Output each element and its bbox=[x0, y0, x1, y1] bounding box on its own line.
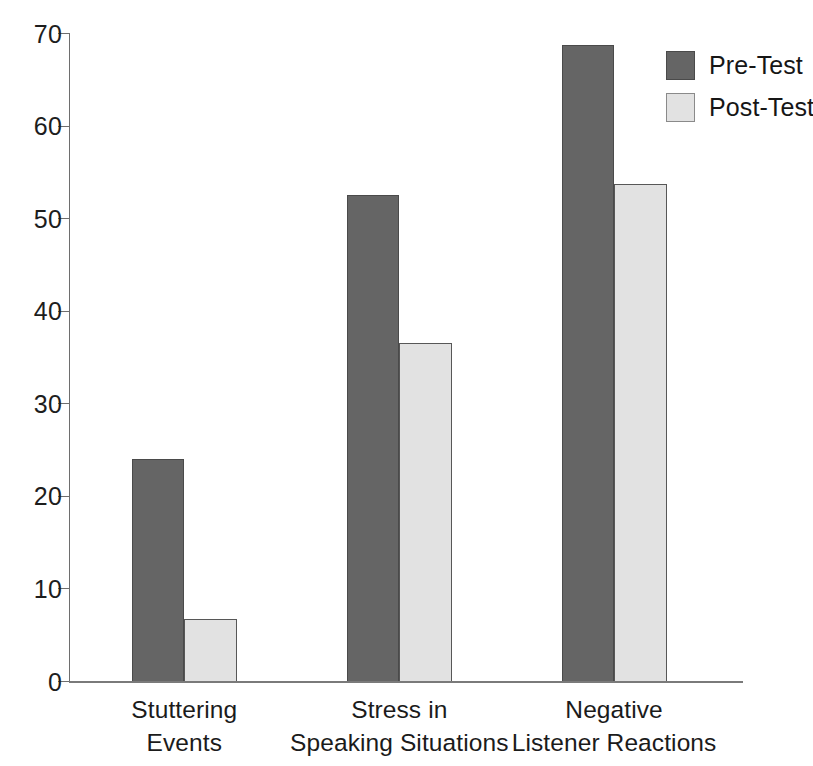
y-tick-20: 20 bbox=[69, 496, 70, 497]
legend: Pre-Test Post-Test bbox=[666, 44, 813, 128]
bar-pre-test-group-3 bbox=[562, 45, 615, 681]
bar-pre-test-group-2 bbox=[347, 195, 400, 681]
bar-post-test-group-1 bbox=[184, 619, 237, 681]
x-axis-line bbox=[69, 681, 743, 683]
legend-item-pre-test: Pre-Test bbox=[666, 44, 813, 86]
y-tick-0: 0 bbox=[69, 681, 70, 682]
y-tick-label: 30 bbox=[34, 389, 62, 418]
y-tick-30: 30 bbox=[69, 403, 70, 404]
y-tick-70: 70 bbox=[69, 33, 70, 34]
legend-label-post-test: Post-Test bbox=[709, 93, 813, 122]
y-tick-10: 10 bbox=[69, 588, 70, 589]
bar-post-test-group-3 bbox=[614, 184, 667, 681]
y-tick-50: 50 bbox=[69, 218, 70, 219]
bar-pre-test-group-1 bbox=[132, 459, 185, 681]
y-tick-label: 10 bbox=[34, 574, 62, 603]
legend-item-post-test: Post-Test bbox=[666, 86, 813, 128]
y-tick-label: 20 bbox=[34, 482, 62, 511]
y-tick-label: 50 bbox=[34, 204, 62, 233]
plot-area: 010203040506070 bbox=[69, 33, 744, 681]
y-tick-label: 70 bbox=[34, 19, 62, 48]
legend-swatch-pre-test-icon bbox=[666, 51, 695, 80]
bar-chart: 010203040506070 Stuttering EventsStress … bbox=[0, 0, 813, 766]
bar-post-test-group-2 bbox=[399, 343, 452, 681]
y-tick-40: 40 bbox=[69, 311, 70, 312]
y-tick-label: 40 bbox=[34, 297, 62, 326]
legend-label-pre-test: Pre-Test bbox=[709, 51, 803, 80]
legend-swatch-post-test-icon bbox=[666, 93, 695, 122]
y-tick-60: 60 bbox=[69, 126, 70, 127]
x-axis-label-group-3: Negative Listener Reactions bbox=[464, 694, 764, 759]
y-tick-label: 60 bbox=[34, 112, 62, 141]
y-tick-label: 0 bbox=[48, 667, 62, 696]
